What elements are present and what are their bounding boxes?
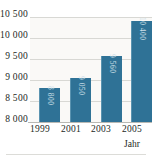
bar-value-label: 10 400 xyxy=(138,17,146,41)
bar-2003[interactable]: 9 560 xyxy=(101,56,122,122)
y-axis-tick-label: 10 500 xyxy=(0,10,28,20)
bar-2001[interactable]: 9 050 xyxy=(70,78,91,122)
x-axis-tick-label: 2005 xyxy=(112,125,152,135)
y-axis-tick-label: 10 000 xyxy=(0,31,28,41)
bottom-divider xyxy=(6,154,146,155)
bar-value-label: 9 560 xyxy=(108,54,116,73)
bar-chart: 10 500 10 000 9 500 9 000 8 500 8 000 8 … xyxy=(0,0,152,159)
x-axis-title: Jahr xyxy=(112,140,152,150)
bars-layer: 8 800 9 050 9 560 10 400 xyxy=(30,17,152,122)
bar-value-label: 9 050 xyxy=(77,76,85,95)
bar-2005[interactable]: 10 400 xyxy=(131,21,152,122)
y-axis-tick-label: 9 500 xyxy=(5,52,28,62)
y-axis-tick-label: 8 500 xyxy=(5,94,28,104)
bar-value-label: 8 800 xyxy=(46,86,54,105)
y-axis-tick-label: 9 000 xyxy=(5,73,28,83)
bar-1999[interactable]: 8 800 xyxy=(39,88,60,122)
axis-baseline-8000 xyxy=(28,122,152,123)
y-axis-tick-label: 8 000 xyxy=(5,115,28,125)
